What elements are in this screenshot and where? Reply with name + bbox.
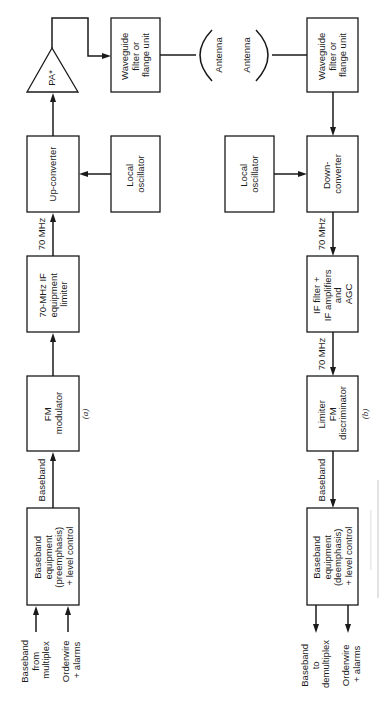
arrow-down-icon: [313, 624, 319, 633]
receiver-diagram: Antenna Waveguide filter or flange unit …: [225, 18, 370, 688]
svg-text:Baseband equipment: Baseband equipment (deemphasis) + level …: [311, 526, 354, 586]
rx-local-oscillator-block: Local oscillator: [225, 136, 274, 212]
tx-signal-label-baseband: Baseband: [36, 459, 47, 502]
tx-waveguide-block: Waveguide filter or flange unit: [111, 18, 160, 92]
svg-text:Antenna: Antenna: [241, 37, 252, 73]
arrow-up-icon: [50, 213, 56, 222]
transmitter-diagram: Baseband equipment (preemphasis) + level…: [19, 18, 224, 683]
rx-output-orderwire-alarms: Orderwire + alarms: [340, 642, 362, 686]
arrow-up-icon: [50, 452, 56, 461]
tx-input-baseband-from-multiplex: Baseband from multiplex: [19, 637, 51, 682]
svg-text:Antenna: Antenna: [213, 37, 224, 73]
arrow-up-icon: [50, 93, 56, 102]
arrow-left-icon: [79, 171, 88, 177]
tx-fm-modulator-block: FM modulator: [27, 376, 79, 451]
tx-local-oscillator-block: Local oscillator: [111, 136, 160, 212]
antenna-dish-icon: [200, 30, 212, 81]
tx-if-equipment-block: 70-MHz IF equipment limiter: [27, 256, 79, 332]
rx-waveguide-block: Waveguide filter or flange unit: [307, 18, 358, 92]
rx-baseband-equipment-block: Baseband equipment (deemphasis) + level …: [307, 508, 358, 605]
tx-baseband-eq-line4: + level control: [64, 527, 75, 586]
arrow-right-icon: [298, 171, 307, 177]
tx-caption-a: (a): [80, 409, 90, 420]
svg-text:Up-converter: Up-converter: [47, 147, 58, 202]
tx-input-orderwire-alarms: Orderwire + alarms: [60, 638, 82, 682]
rx-output-arrows: [313, 605, 351, 633]
rx-if-filter-block: IF filter + IF amplifiers and AGC: [307, 256, 358, 332]
arrow-down-icon: [330, 499, 336, 508]
tx-baseband-equipment-block: Baseband equipment (preemphasis) + level…: [27, 508, 79, 605]
arrow-down-icon: [330, 247, 336, 256]
rx-antenna: Antenna: [241, 30, 268, 81]
svg-text:Baseband equipment: Baseband equipment (preemphasis) + level…: [32, 524, 75, 587]
svg-text:Down- converter: Down- converter: [321, 154, 343, 194]
rx-caption-b: (b): [360, 409, 370, 420]
tx-signal-label-70mhz: 70 MHz: [36, 217, 47, 250]
tx-antenna: Antenna: [200, 30, 224, 81]
arrow-right-icon: [102, 53, 111, 59]
arrow-down-icon: [330, 367, 336, 376]
fm-radio-link-block-diagram: Baseband equipment (preemphasis) + level…: [0, 0, 384, 718]
rx-output-baseband-to-demultiplex: Baseband to demultiplex: [299, 640, 331, 688]
rx-signal-label-baseband: Baseband: [316, 459, 327, 502]
svg-text:PA*: PA*: [46, 70, 57, 86]
rx-signal-label-70mhz-b: 70 MHz: [316, 337, 327, 370]
arrow-up-icon: [65, 606, 71, 615]
tx-baseband-eq-line3: (preemphasis): [53, 527, 64, 588]
antenna-dish-icon: [256, 30, 268, 81]
rx-signal-label-70mhz-a: 70 MHz: [316, 217, 327, 250]
faint-figure-caption: [370, 480, 379, 598]
arrow-down-icon: [345, 624, 351, 633]
arrow-up-icon: [50, 333, 56, 342]
rx-down-converter-block: Down- converter: [307, 136, 358, 212]
rx-limiter-discriminator-block: Limiter FM discriminator: [307, 376, 358, 451]
arrow-down-icon: [330, 127, 336, 136]
tx-up-converter-block: Up-converter: [27, 136, 79, 212]
tx-baseband-eq-line2: equipment: [43, 535, 54, 580]
tx-power-amplifier-block: PA*: [27, 48, 78, 92]
tx-input-arrows: [33, 606, 71, 632]
tx-baseband-eq-line1: Baseband: [32, 536, 43, 579]
arrow-up-icon: [33, 606, 39, 615]
